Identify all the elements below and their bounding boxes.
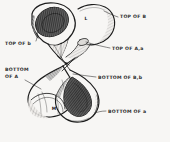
interior-mark-L: L (85, 16, 88, 21)
label-top-of-B: TOP OF B (120, 14, 146, 19)
label-bottom-of-B-b: BOTTOM OF B,b (98, 75, 143, 80)
figure-canvas: TOP OF B TOP OF A,a BOTTOM OF B,b BOTTOM… (0, 0, 170, 142)
label-top-of-b: TOP OF b (5, 41, 31, 46)
label-bottom-of-A-line1: BOTTOM (5, 67, 29, 72)
leader-bottom-of-A (25, 80, 41, 89)
leader-bottom-of-B-b (73, 74, 96, 77)
label-top-of-A-a: TOP OF A,a (112, 46, 144, 51)
label-bottom-of-A-line2: OF A (5, 74, 18, 79)
interior-mark-M: M (52, 106, 56, 111)
label-bottom-of-a: BOTTOM OF a (108, 109, 146, 114)
topological-surface-drawing: TOP OF B TOP OF A,a BOTTOM OF B,b BOTTOM… (0, 0, 170, 142)
inner-descending-tube (66, 37, 90, 58)
